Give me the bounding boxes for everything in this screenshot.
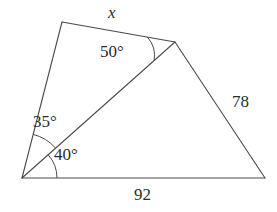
label-side-78: 78 (232, 93, 249, 110)
edge-top-side (62, 22, 175, 42)
label-angle-40: 40° (54, 146, 78, 163)
label-angle-35: 35° (33, 113, 57, 130)
label-unknown-side-x: x (108, 4, 116, 21)
edge-right-side (175, 42, 265, 178)
angle-arc-35 (33, 134, 55, 148)
angle-arc-50 (147, 37, 154, 61)
edge-diagonal (22, 42, 175, 178)
label-angle-50: 50° (100, 43, 124, 60)
geometry-diagram: x 50° 35° 40° 78 92 (0, 0, 277, 212)
label-side-92: 92 (134, 186, 151, 203)
